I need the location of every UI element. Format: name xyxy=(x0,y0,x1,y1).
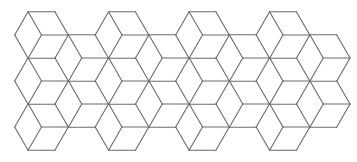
cube-edge xyxy=(296,12,309,35)
cube-edge xyxy=(95,12,108,35)
cube-edge xyxy=(15,127,28,150)
cube-edge xyxy=(216,104,229,127)
cube-edge xyxy=(337,58,350,81)
cube-edge xyxy=(109,35,122,58)
cube-edge xyxy=(55,35,68,58)
cube-edge xyxy=(135,127,148,150)
cube-edge xyxy=(55,127,68,150)
cube-edge xyxy=(149,58,162,81)
cube-edge xyxy=(256,81,269,104)
cube-edge xyxy=(15,35,28,58)
cube-edge xyxy=(337,35,350,58)
cube-edge xyxy=(216,127,229,150)
cube-edge xyxy=(109,58,122,81)
cube-edge xyxy=(310,81,323,104)
cube-edge xyxy=(229,104,242,127)
cube-edge xyxy=(216,35,229,58)
cube-edge xyxy=(28,81,41,104)
cube-edge xyxy=(337,81,350,104)
cube-edge xyxy=(176,58,189,81)
cube-edge xyxy=(135,12,148,35)
cube-edge xyxy=(68,104,81,127)
cube-edge xyxy=(149,35,162,58)
cube-edge xyxy=(229,58,242,81)
cube-edge xyxy=(109,104,122,127)
cube-edge xyxy=(296,58,309,81)
cube-edge xyxy=(229,81,242,104)
cube-tiling-figure xyxy=(0,0,357,162)
cube-edge xyxy=(310,104,323,127)
cube-edge xyxy=(216,81,229,104)
cube-edge xyxy=(256,104,269,127)
cube-edge xyxy=(229,35,242,58)
cube-edge xyxy=(68,58,81,81)
cube-edge xyxy=(189,81,202,104)
cube-edge xyxy=(28,12,41,35)
cube-edge xyxy=(149,81,162,104)
cube-tiling-svg xyxy=(0,0,357,162)
cube-edge xyxy=(176,35,189,58)
cube-edge xyxy=(109,12,122,35)
cube-edge xyxy=(135,58,148,81)
cube-edge xyxy=(95,104,108,127)
cube-edge xyxy=(28,104,41,127)
cube-edge xyxy=(270,104,283,127)
cube-edge xyxy=(135,104,148,127)
cube-edge xyxy=(270,12,283,35)
cube-edge xyxy=(135,35,148,58)
cube-edge xyxy=(189,104,202,127)
cube-edge xyxy=(296,104,309,127)
cube-edge xyxy=(270,35,283,58)
cube-edge xyxy=(189,127,202,150)
cube-edge xyxy=(55,104,68,127)
cube-edge xyxy=(15,58,28,81)
cube-edge xyxy=(109,81,122,104)
cube-edge xyxy=(189,12,202,35)
cube-edge xyxy=(216,58,229,81)
cube-edge xyxy=(216,12,229,35)
cube-edge xyxy=(55,81,68,104)
cube-edge xyxy=(270,58,283,81)
cube-edge xyxy=(68,35,81,58)
cube-edge xyxy=(55,58,68,81)
cube-edge xyxy=(296,35,309,58)
cube-edge xyxy=(310,35,323,58)
cube-edge xyxy=(28,58,41,81)
cube-edge xyxy=(270,81,283,104)
cube-edge xyxy=(176,127,189,150)
cube-edge xyxy=(68,81,81,104)
cube-edge xyxy=(256,58,269,81)
cube-edge xyxy=(135,81,148,104)
cube-edge xyxy=(256,12,269,35)
cube-edge xyxy=(189,58,202,81)
cube-edge xyxy=(296,127,309,150)
cube-edge xyxy=(270,127,283,150)
cube-edge xyxy=(310,58,323,81)
cube-edge xyxy=(55,12,68,35)
cube-edge xyxy=(95,35,108,58)
cube-edge xyxy=(28,127,41,150)
cube-edge xyxy=(15,12,28,35)
cube-edge xyxy=(256,127,269,150)
cube-edge xyxy=(95,127,108,150)
cube-edge xyxy=(176,81,189,104)
cube-edge xyxy=(176,104,189,127)
cube-edge xyxy=(95,58,108,81)
cube-edge xyxy=(149,104,162,127)
cube-edge xyxy=(95,81,108,104)
cube-edge xyxy=(337,104,350,127)
cube-edge xyxy=(28,35,41,58)
cube-edge xyxy=(296,81,309,104)
cube-edge xyxy=(15,104,28,127)
cube-edge xyxy=(15,81,28,104)
cube-edge xyxy=(189,35,202,58)
cube-edge xyxy=(109,127,122,150)
cube-edge xyxy=(176,12,189,35)
cube-edge xyxy=(256,35,269,58)
